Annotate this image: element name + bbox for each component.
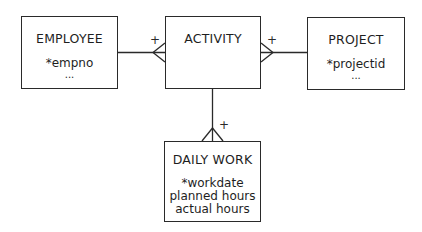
project-activity-plus-icon: + xyxy=(267,34,277,46)
employee-activity-plus-icon: + xyxy=(150,34,160,46)
attribute-ellipsis: ... xyxy=(308,72,404,80)
entity-employee[interactable]: EMPLOYEE *empno ... xyxy=(21,16,118,89)
entity-title: PROJECT xyxy=(308,32,404,47)
entity-title: DAILY WORK xyxy=(165,152,260,167)
entity-project[interactable]: PROJECT *projectid ... xyxy=(307,17,405,90)
entity-title: EMPLOYEE xyxy=(22,31,117,46)
er-diagram: + + + EMPLOYEE *empno ... ACTIVITY PROJE… xyxy=(0,0,422,232)
entity-attributes: *workdate planned hours actual hours xyxy=(165,177,260,216)
attribute-ellipsis: ... xyxy=(22,71,117,79)
entity-title: ACTIVITY xyxy=(166,31,260,46)
entity-attributes: *projectid ... xyxy=(308,58,404,80)
entity-activity[interactable]: ACTIVITY xyxy=(165,16,261,89)
activity-dailywork-plus-icon: + xyxy=(219,119,229,131)
activity-dailywork-link xyxy=(202,89,223,141)
entity-daily-work[interactable]: DAILY WORK *workdate planned hours actua… xyxy=(164,141,261,222)
attribute-actual-hours: actual hours xyxy=(165,203,260,216)
entity-attributes: *empno ... xyxy=(22,57,117,79)
